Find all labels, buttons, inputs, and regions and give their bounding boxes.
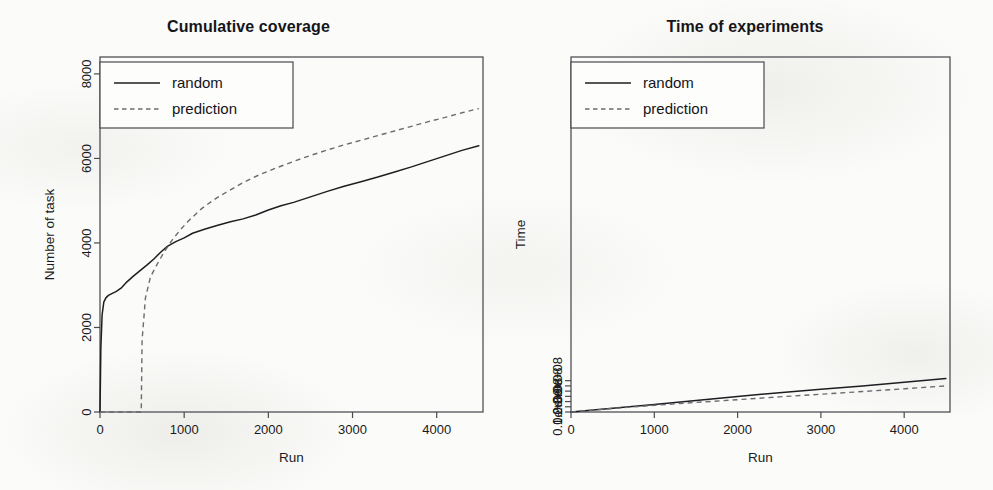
x-tick-label: 3000 — [806, 422, 835, 437]
y-tick-label: 6000 — [79, 144, 94, 173]
chart-panel-time-of-experiments: Time of experiments 010002000300040000.0… — [497, 0, 993, 490]
series-line-random — [100, 146, 479, 412]
x-tick-label: 0 — [96, 422, 103, 437]
legend-label-prediction: prediction — [643, 100, 708, 117]
legend: randomprediction — [571, 62, 764, 128]
x-tick-label: 4000 — [890, 422, 919, 437]
legend-label-random: random — [643, 74, 694, 91]
chart-panel-cumulative-coverage: Cumulative coverage 01000200030004000020… — [0, 0, 497, 490]
x-tick-label: 3000 — [338, 422, 367, 437]
legend: randomprediction — [100, 62, 293, 128]
series-line-prediction — [100, 109, 479, 412]
legend-label-random: random — [172, 74, 223, 91]
y-tick-label: 2000 — [79, 313, 94, 342]
plot-area-time-of-experiments: 010002000300040000.0e+001.0e+082.0e+083.… — [497, 0, 993, 490]
y-axis-title: Number of task — [42, 188, 57, 280]
y-tick-label: 0 — [79, 408, 94, 415]
legend-label-prediction: prediction — [172, 100, 237, 117]
y-axis-title: Time — [513, 220, 528, 250]
x-tick-label: 2000 — [723, 422, 752, 437]
x-tick-label: 1000 — [640, 422, 669, 437]
x-tick-label: 4000 — [422, 422, 451, 437]
y-tick-label: 8000 — [79, 59, 94, 88]
series-line-prediction — [571, 386, 946, 412]
figure-canvas: Cumulative coverage 01000200030004000020… — [0, 0, 993, 490]
x-tick-label: 1000 — [170, 422, 199, 437]
x-axis-title: Run — [279, 450, 304, 465]
y-tick-label: 3.0e+08 — [550, 357, 565, 404]
x-axis-title: Run — [748, 450, 773, 465]
plot-area-cumulative-coverage: 0100020003000400002000400060008000RunNum… — [0, 0, 497, 490]
x-tick-label: 0 — [567, 422, 574, 437]
y-tick-label: 4000 — [79, 228, 94, 257]
x-tick-label: 2000 — [254, 422, 283, 437]
